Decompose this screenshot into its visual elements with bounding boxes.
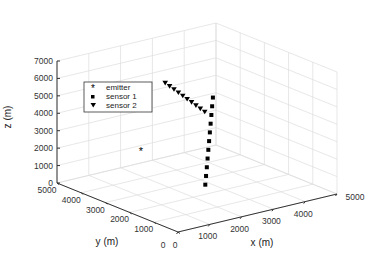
x-tick-label: 1000 bbox=[198, 231, 217, 241]
x-tick-label: 5000 bbox=[346, 192, 365, 202]
floor-grid-line bbox=[152, 160, 273, 209]
y-tick bbox=[178, 232, 180, 234]
sensor-1-marker bbox=[206, 157, 210, 161]
y-tick-label: 1000 bbox=[134, 224, 153, 234]
back-wall-grid-line bbox=[57, 110, 216, 148]
sensor-2-marker bbox=[162, 81, 168, 86]
z-tick-label: 3000 bbox=[34, 126, 53, 136]
floor-grid-line bbox=[89, 175, 210, 224]
floor-grid-line bbox=[81, 155, 240, 193]
y-tick-label: 3000 bbox=[86, 205, 105, 215]
y-axis-label: y (m) bbox=[96, 236, 119, 247]
y-tick-label: 0 bbox=[161, 240, 166, 250]
x-tick-label: 4000 bbox=[294, 209, 313, 219]
z-tick-label: 7000 bbox=[34, 56, 53, 66]
y-tick-label: 4000 bbox=[62, 195, 81, 205]
z-tick-label: 1000 bbox=[34, 161, 53, 171]
x-axis-label: x (m) bbox=[251, 237, 274, 248]
x-tick-label: 3000 bbox=[262, 216, 281, 226]
sensor-2-marker bbox=[167, 84, 173, 89]
asterisk-icon: * bbox=[91, 83, 95, 94]
x-tick-label: 0 bbox=[173, 240, 178, 250]
x-tick-label: 2000 bbox=[230, 224, 249, 234]
sensor-1-marker bbox=[207, 139, 211, 143]
floor-grid-line bbox=[121, 168, 242, 217]
sensor-1-marker bbox=[209, 122, 213, 126]
sensor-1-marker bbox=[206, 148, 210, 152]
legend[interactable]: * emitter sensor 1 sensor 2 bbox=[84, 82, 152, 112]
back-wall-grid-line bbox=[57, 128, 216, 166]
y-axis-line bbox=[57, 183, 178, 232]
sensor-1-marker bbox=[209, 113, 213, 117]
sensor-2-marker bbox=[180, 94, 186, 99]
emitter-marker: * bbox=[139, 145, 144, 157]
z-tick-label: 2000 bbox=[34, 143, 53, 153]
z-axis-label: z (m) bbox=[2, 106, 13, 129]
sensor-2-marker bbox=[198, 107, 204, 112]
legend-label-sensor-2: sensor 2 bbox=[106, 101, 137, 110]
square-icon bbox=[91, 95, 95, 99]
z-tick-label: 6000 bbox=[34, 73, 53, 83]
back-wall-grid-line bbox=[57, 40, 216, 78]
back-wall-grid-line bbox=[57, 23, 216, 61]
sensor-1-marker bbox=[210, 104, 214, 108]
x-axis-line bbox=[178, 194, 337, 232]
sensor-1-marker bbox=[203, 183, 207, 187]
legend-label-emitter: emitter bbox=[106, 83, 131, 92]
grid-lines bbox=[57, 23, 337, 232]
z-tick-label: 4000 bbox=[34, 108, 53, 118]
sensor-1-marker bbox=[208, 130, 212, 134]
floor-grid-line bbox=[130, 174, 289, 212]
y-tick-label: 5000 bbox=[38, 185, 57, 195]
sensor-1-marker bbox=[204, 174, 208, 178]
floor-grid-line bbox=[105, 165, 264, 203]
floor-grid-line bbox=[184, 153, 305, 202]
3d-scatter-plot: 0100020003000400050000100020003000400050… bbox=[0, 0, 371, 264]
z-tick-label: 5000 bbox=[34, 91, 53, 101]
sensor-2-marker bbox=[171, 87, 177, 92]
sensor-1-marker bbox=[211, 96, 215, 100]
sensor-2-marker bbox=[176, 90, 182, 95]
back-wall-grid-line bbox=[57, 145, 216, 183]
y-tick-label: 2000 bbox=[110, 214, 129, 224]
sensor-2-marker bbox=[189, 100, 195, 105]
legend-label-sensor-1: sensor 1 bbox=[106, 92, 137, 101]
floor-grid-line bbox=[154, 184, 313, 222]
sensor-2-marker bbox=[193, 103, 199, 108]
z-tick-label: 0 bbox=[48, 178, 53, 188]
sensor-1-marker bbox=[205, 165, 209, 169]
